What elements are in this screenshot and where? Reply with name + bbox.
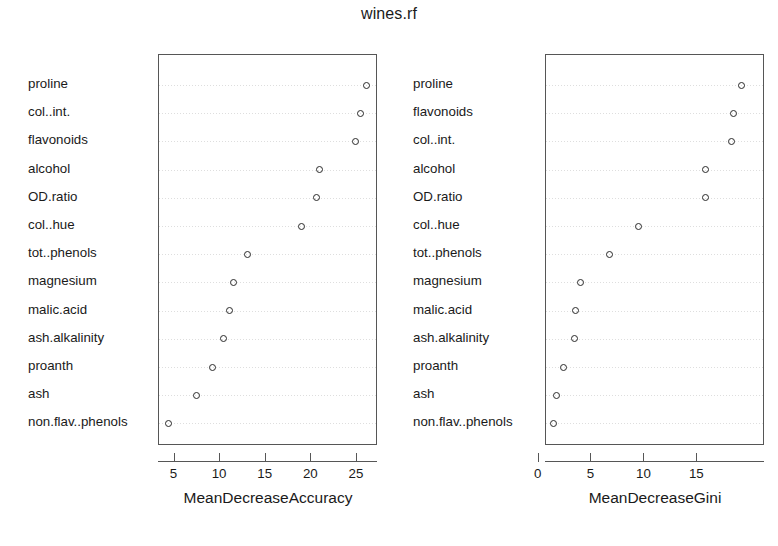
data-point	[165, 420, 172, 427]
gridline	[159, 367, 376, 368]
category-label: OD.ratio	[413, 190, 463, 203]
x-tick-label: 15	[689, 466, 704, 481]
category-label: non.flav..phenols	[28, 416, 128, 429]
x-tick-mark	[265, 453, 266, 462]
x-tick-label: 15	[257, 466, 272, 481]
data-point	[244, 251, 251, 258]
data-point	[298, 223, 305, 230]
gridline	[159, 198, 376, 199]
gridline	[159, 170, 376, 171]
gridline	[159, 423, 376, 424]
category-label: col..hue	[413, 218, 460, 231]
data-point	[571, 335, 578, 342]
category-label: ash.alkalinity	[413, 331, 489, 344]
x-axis-title-gini: MeanDecreaseGini	[589, 489, 722, 507]
data-point	[352, 138, 359, 145]
category-label: col..hue	[28, 218, 75, 231]
category-label: alcohol	[413, 162, 455, 175]
x-tick-mark	[174, 453, 175, 462]
data-point	[730, 110, 737, 117]
x-axis-line-accuracy	[158, 461, 377, 462]
gridline	[546, 198, 763, 199]
category-label: ash.alkalinity	[28, 331, 104, 344]
category-label: proline	[28, 77, 68, 90]
plot-area-gini	[546, 55, 763, 444]
data-point	[357, 110, 364, 117]
x-tick-label: 25	[349, 466, 364, 481]
gridline	[159, 85, 376, 86]
data-point	[553, 392, 560, 399]
category-label: ash	[413, 388, 434, 401]
x-tick-mark	[219, 453, 220, 462]
x-tick-mark	[696, 453, 697, 462]
data-point	[226, 307, 233, 314]
page-title: wines.rf	[0, 5, 778, 23]
gridline	[159, 254, 376, 255]
gridline	[546, 254, 763, 255]
panel-mean-decrease-gini	[545, 54, 764, 445]
gridline	[546, 423, 763, 424]
x-tick-mark	[356, 453, 357, 462]
x-tick-mark	[590, 453, 591, 462]
x-axis-title-accuracy: MeanDecreaseAccuracy	[184, 489, 353, 507]
data-point	[193, 392, 200, 399]
gridline	[159, 282, 376, 283]
data-point	[363, 82, 370, 89]
category-label: proline	[413, 77, 453, 90]
gridline	[546, 395, 763, 396]
x-tick-label: 20	[303, 466, 318, 481]
data-point	[572, 307, 579, 314]
x-tick-label: 10	[636, 466, 651, 481]
gridline	[159, 113, 376, 114]
category-label: malic.acid	[28, 303, 87, 316]
gridline	[546, 226, 763, 227]
data-point	[220, 335, 227, 342]
gridline	[546, 339, 763, 340]
category-label: magnesium	[413, 275, 482, 288]
gridline	[159, 226, 376, 227]
data-point	[606, 251, 613, 258]
panel-mean-decrease-accuracy	[158, 54, 377, 445]
category-label: proanth	[28, 359, 73, 372]
category-label: flavonoids	[28, 134, 88, 147]
data-point	[560, 364, 567, 371]
data-point	[635, 223, 642, 230]
category-label: col..int.	[413, 134, 455, 147]
gridline	[546, 170, 763, 171]
data-point	[316, 166, 323, 173]
gridline	[546, 367, 763, 368]
x-tick-mark	[538, 453, 539, 462]
gridline	[159, 395, 376, 396]
category-label: magnesium	[28, 275, 97, 288]
data-point	[209, 364, 216, 371]
category-label: tot..phenols	[28, 247, 97, 260]
gridline	[546, 85, 763, 86]
category-label: OD.ratio	[28, 190, 78, 203]
plot-area-accuracy	[159, 55, 376, 444]
x-tick-label: 10	[212, 466, 227, 481]
data-point	[728, 138, 735, 145]
data-point	[702, 194, 709, 201]
data-point	[738, 82, 745, 89]
data-point	[577, 279, 584, 286]
x-tick-label: 5	[587, 466, 594, 481]
data-point	[550, 420, 557, 427]
x-axis-line-gini	[545, 461, 764, 462]
gridline	[159, 311, 376, 312]
category-label: col..int.	[28, 106, 70, 119]
category-label: malic.acid	[413, 303, 472, 316]
category-label: proanth	[413, 359, 458, 372]
category-label: non.flav..phenols	[413, 416, 513, 429]
category-label: tot..phenols	[413, 247, 482, 260]
data-point	[313, 194, 320, 201]
x-tick-mark	[643, 453, 644, 462]
category-label: flavonoids	[413, 106, 473, 119]
gridline	[159, 339, 376, 340]
gridline	[159, 141, 376, 142]
x-tick-mark	[310, 453, 311, 462]
variable-importance-plot: wines.rf prolinecol..int.flavonoidsalcoh…	[0, 0, 778, 546]
data-point	[230, 279, 237, 286]
x-tick-label: 5	[170, 466, 177, 481]
x-tick-label: 0	[534, 466, 541, 481]
category-label: ash	[28, 388, 49, 401]
